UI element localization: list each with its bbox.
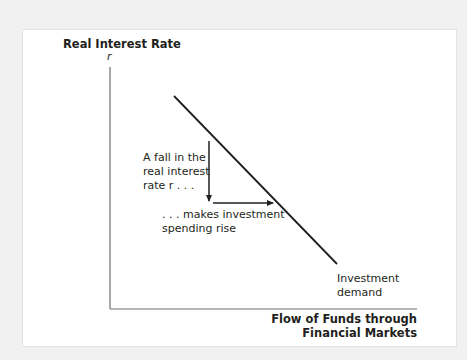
y-axis-label: Real Interest Rate (63, 37, 181, 51)
annotation-fall-line2: real interest (143, 165, 210, 179)
y-axis-symbol: r (107, 50, 112, 64)
x-axis-label-line2: Financial Markets (302, 326, 417, 340)
x-axis-label-line1: Flow of Funds through (271, 312, 417, 326)
annotation-rise-line2: spending rise (162, 222, 236, 236)
annotation-fall-line1: A fall in the (143, 151, 206, 165)
curve-label-line1: Investment (337, 272, 399, 286)
annotation-fall-line3: rate r . . . (143, 179, 194, 193)
curve-label-line2: demand (337, 286, 382, 300)
annotation-rise-line1: . . . makes investment (162, 208, 285, 222)
diagram-canvas (0, 0, 467, 360)
investment-demand-curve (174, 96, 337, 264)
